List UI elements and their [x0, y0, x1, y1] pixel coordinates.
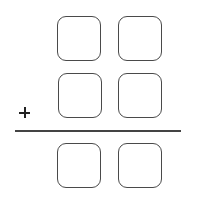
addend-1-ones-box[interactable]: [118, 16, 162, 61]
addend-1-tens-box[interactable]: [57, 16, 101, 61]
addend-2-tens-box[interactable]: [58, 73, 102, 118]
addend-2-ones-box[interactable]: [118, 73, 162, 118]
sum-divider-line: [15, 130, 181, 132]
sum-ones-box[interactable]: [118, 143, 162, 188]
sum-tens-box[interactable]: [57, 143, 101, 188]
plus-sign-icon: [19, 107, 30, 118]
